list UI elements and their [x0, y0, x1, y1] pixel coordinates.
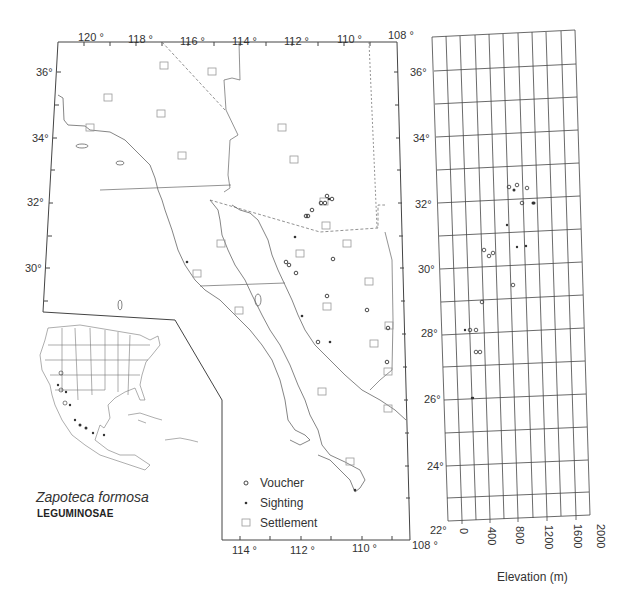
bottom-ticks	[240, 536, 392, 540]
lon-label-108: 108 °	[388, 29, 414, 41]
elev-tick-400: 400	[486, 527, 498, 545]
lon-bottom-110: 110 °	[352, 542, 377, 554]
family-name: LEGUMINOSAE	[37, 508, 114, 519]
lat-left-30: 30°	[25, 262, 42, 274]
lon-bottom-108: 108 °	[412, 539, 438, 551]
inset-north-america	[40, 325, 198, 470]
elev-tick-2000: 2000	[595, 524, 607, 548]
lon-label-112: 112 °	[284, 35, 309, 47]
lon-bottom-114: 114 °	[232, 544, 257, 556]
state-boundaries	[100, 42, 393, 390]
elev-tick-0: 0	[458, 528, 470, 534]
coastline	[58, 95, 406, 492]
elevation-axis-title: Elevation (m)	[497, 570, 568, 584]
elev-tick-800: 800	[514, 526, 526, 544]
settlement-square-icon	[240, 517, 252, 529]
main-map-frame	[43, 42, 410, 540]
inset-vouchers	[59, 371, 67, 405]
legend: Voucher Sighting Settlement	[240, 473, 317, 533]
sighting-dot-icon	[240, 497, 252, 509]
lat-left-34: 34°	[32, 132, 49, 144]
lon-label-120: 120 °	[78, 31, 104, 43]
legend-label: Sighting	[260, 496, 303, 510]
lat-right-30: 30°	[418, 263, 435, 275]
lon-label-114: 114 °	[232, 35, 257, 47]
lat-right-34: 34°	[413, 132, 430, 144]
elevation-vouchers	[468, 183, 529, 354]
lon-label-118: 118 °	[128, 33, 153, 45]
lat-left-32: 32°	[27, 196, 44, 208]
lat-right-22: 22°	[430, 524, 447, 536]
species-name: Zapoteca formosa	[36, 489, 149, 505]
settlements	[86, 62, 393, 465]
legend-label: Settlement	[260, 516, 317, 530]
lon-bottom-112: 112 °	[290, 544, 315, 556]
elevation-panel	[432, 30, 590, 521]
elev-tick-1200: 1200	[543, 525, 555, 549]
lon-label-110: 110 °	[337, 33, 362, 45]
inset-points	[57, 384, 105, 436]
legend-item-voucher: Voucher	[240, 473, 317, 493]
lat-right-32: 32°	[415, 198, 432, 210]
lat-right-28: 28°	[421, 327, 438, 339]
legend-item-sighting: Sighting	[240, 493, 317, 513]
voucher-points	[284, 194, 390, 364]
lat-right-26: 26°	[424, 393, 441, 405]
lat-right-36: 36°	[410, 66, 427, 78]
voucher-circle-icon	[240, 477, 252, 489]
lat-right-24: 24°	[427, 460, 444, 472]
top-ticks	[84, 42, 370, 46]
left-ticks	[44, 72, 61, 301]
legend-label: Voucher	[260, 476, 304, 490]
legend-item-settlement: Settlement	[240, 513, 317, 533]
sighting-points	[186, 198, 357, 492]
lat-left-36: 36°	[36, 66, 53, 78]
elev-tick-1600: 1600	[572, 524, 584, 548]
lon-label-116: 116 °	[180, 35, 205, 47]
